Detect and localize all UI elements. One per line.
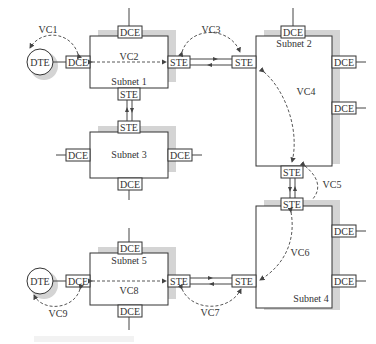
svg-text:STE: STE: [170, 276, 188, 287]
dce-subnet3-left: DCE: [66, 149, 90, 161]
vc4-label: VC4: [297, 86, 316, 97]
svg-text:STE: STE: [235, 276, 253, 287]
svg-text:DCE: DCE: [334, 276, 354, 287]
dce-subnet2-right-bottom: DCE: [332, 102, 356, 114]
svg-text:DCE: DCE: [334, 103, 354, 114]
svg-text:DCE: DCE: [68, 150, 88, 161]
svg-text:DCE: DCE: [170, 150, 190, 161]
svg-text:DCE: DCE: [334, 226, 354, 237]
dce-subnet1-left: DCE: [66, 56, 90, 68]
dce-subnet3-right: DCE: [168, 149, 192, 161]
svg-text:DCE: DCE: [68, 57, 88, 68]
subnet-5: Subnet 5: [90, 247, 176, 305]
dce-subnet1-top: DCE: [118, 26, 142, 38]
svg-text:STE: STE: [283, 167, 301, 178]
svg-text:STE: STE: [235, 57, 253, 68]
vc3-label: VC3: [202, 24, 221, 35]
dce-subnet2-top: DCE: [281, 26, 305, 38]
dce-subnet4-right-bottom: DCE: [332, 275, 356, 287]
svg-text:STE: STE: [170, 57, 188, 68]
svg-text:DCE: DCE: [283, 27, 303, 38]
dce-subnet5-left: DCE: [66, 275, 90, 287]
ste-subnet2-bottom: STE: [281, 166, 303, 178]
ste-subnet2-left: STE: [232, 56, 256, 68]
subnet-4-label: Subnet 4: [293, 293, 328, 304]
subnet-3: Subnet 3: [90, 126, 176, 178]
dce-subnet5-top: DCE: [118, 242, 142, 254]
dce-subnet4-right-top: DCE: [332, 225, 356, 237]
subnet-2: Subnet 2: [256, 30, 340, 166]
ste-subnet4-top: STE: [281, 198, 303, 210]
vc7-label: VC7: [201, 307, 220, 318]
network-diagram: Subnet 1 DCE DCE STE STE DTE VC1 VC2 Sub…: [0, 0, 376, 344]
svg-text:DTE: DTE: [30, 57, 49, 68]
subnet-1-label: Subnet 1: [111, 76, 146, 87]
vc5-label: VC5: [323, 179, 342, 190]
svg-text:STE: STE: [120, 122, 138, 133]
svg-text:STE: STE: [120, 89, 138, 100]
subnet-2-label: Subnet 2: [276, 38, 311, 49]
svg-text:DCE: DCE: [120, 179, 140, 190]
ste-subnet5-right: STE: [168, 275, 190, 287]
vc2-label: VC2: [120, 51, 139, 62]
dce-subnet5-bottom: DCE: [118, 305, 142, 317]
faded-caption: [34, 336, 134, 342]
svg-text:DCE: DCE: [120, 27, 140, 38]
ste-subnet4-left: STE: [232, 275, 256, 287]
ste-subnet1-right: STE: [168, 56, 190, 68]
vc9-label: VC9: [49, 308, 68, 319]
svg-text:STE: STE: [283, 199, 301, 210]
svg-text:DCE: DCE: [334, 57, 354, 68]
svg-text:DTE: DTE: [30, 276, 49, 287]
subnet-3-label: Subnet 3: [111, 149, 146, 160]
dte-bottom: DTE: [27, 268, 53, 294]
svg-text:DCE: DCE: [120, 243, 140, 254]
vc6-label: VC6: [291, 247, 310, 258]
dte-top: DTE: [27, 49, 53, 75]
svg-text:DCE: DCE: [68, 276, 88, 287]
vc1-label: VC1: [39, 24, 58, 35]
dce-subnet2-right-top: DCE: [332, 56, 356, 68]
ste-subnet1-bottom: STE: [118, 88, 140, 100]
dce-subnet3-bottom: DCE: [118, 178, 142, 190]
ste-subnet3-top: STE: [118, 121, 140, 133]
vc8-label: VC8: [120, 285, 139, 296]
subnet-5-label: Subnet 5: [111, 255, 146, 266]
svg-text:DCE: DCE: [120, 306, 140, 317]
